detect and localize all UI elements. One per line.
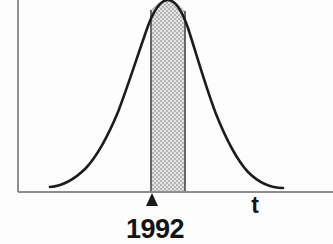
year-arrow-marker [146,193,158,216]
plot-canvas [0,0,333,244]
axis-variable-label: t [244,192,266,218]
bell-curve-figure: 1992 t [0,0,333,244]
year-marker-label: 1992 [124,214,186,244]
arrow-head-icon [146,193,158,206]
shaded-region-fill [151,0,185,192]
